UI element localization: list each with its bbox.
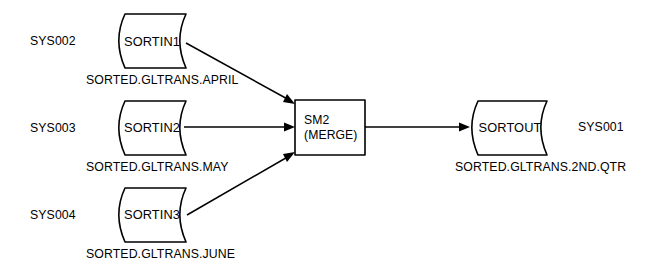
node-input1-system-id: SYS002 <box>30 34 76 48</box>
merge-data-flow-diagram: SORTIN1 SYS002 SORTED.GLTRANS.APRIL SORT… <box>0 0 655 280</box>
node-merge-process: SM2 (MERGE) <box>295 100 365 155</box>
connector-input1-line <box>186 43 291 101</box>
node-input3-system-id: SYS004 <box>30 208 76 222</box>
connector-input2-to-merge <box>184 123 295 132</box>
node-output-label: SORTOUT <box>479 120 542 135</box>
connector-merge-to-output <box>365 123 470 132</box>
node-input2-system-id: SYS003 <box>30 121 76 135</box>
connector-input1-arrowhead <box>283 94 295 104</box>
connector-input2-arrowhead <box>284 123 295 132</box>
node-input1: SORTIN1 <box>119 14 186 68</box>
connector-input3-arrowhead <box>283 152 295 162</box>
node-input3-dataset-name: SORTED.GLTRANS.JUNE <box>86 247 235 261</box>
node-input2: SORTIN2 <box>119 101 186 155</box>
connector-output-arrowhead <box>459 123 470 132</box>
node-input3: SORTIN3 <box>119 188 186 242</box>
process-label-line2: (MERGE) <box>304 128 358 142</box>
node-output: SORTOUT <box>472 101 547 155</box>
diagram-canvas-svg: SORTIN1 SYS002 SORTED.GLTRANS.APRIL SORT… <box>0 0 655 280</box>
process-label-line1: SM2 <box>304 113 329 127</box>
node-input3-label: SORTIN3 <box>124 207 180 222</box>
node-output-dataset-name: SORTED.GLTRANS.2ND.QTR <box>455 160 626 174</box>
node-input2-dataset-name: SORTED.GLTRANS.MAY <box>86 160 229 174</box>
node-input2-label: SORTIN2 <box>124 120 180 135</box>
node-output-system-id: SYS001 <box>578 120 624 134</box>
node-input1-label: SORTIN1 <box>124 34 180 49</box>
node-input1-dataset-name: SORTED.GLTRANS.APRIL <box>86 73 239 87</box>
